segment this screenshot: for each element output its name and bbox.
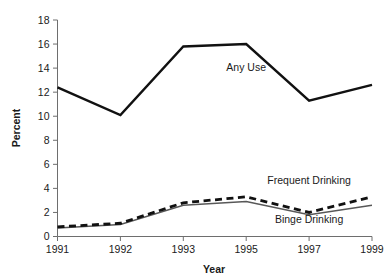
x-tick-label: 1997 <box>297 243 321 255</box>
x-axis: 199119921993199519971999 Year <box>46 237 384 276</box>
y-axis-tick-labels: 024681012141618 <box>38 14 50 243</box>
x-axis-tick-labels: 199119921993199519971999 <box>46 243 384 255</box>
series-group <box>58 44 373 228</box>
y-axis: 024681012141618 Percent <box>10 14 58 243</box>
y-tick-label: 2 <box>44 206 50 218</box>
y-tick-label: 8 <box>44 134 50 146</box>
x-axis-title: Year <box>203 263 225 275</box>
y-tick-label: 6 <box>44 158 50 170</box>
y-axis-ticks <box>53 20 58 237</box>
series-label-any-use: Any Use <box>226 61 266 73</box>
x-tick-label: 1995 <box>235 243 259 255</box>
y-tick-label: 4 <box>44 182 50 194</box>
y-tick-label: 0 <box>44 230 50 242</box>
x-axis-ticks <box>58 237 373 242</box>
series-label-frequent-drinking: Frequent Drinking <box>267 174 351 186</box>
x-tick-label: 1999 <box>360 243 384 255</box>
x-tick-label: 1992 <box>109 243 133 255</box>
series-annotations: Any Use Frequent Drinking Binge Drinking <box>226 61 351 226</box>
y-tick-label: 10 <box>38 110 50 122</box>
y-axis-title: Percent <box>10 108 22 147</box>
y-tick-label: 18 <box>38 14 50 26</box>
line-chart: 024681012141618 Percent 1991199219931995… <box>0 0 387 280</box>
y-tick-label: 12 <box>38 86 50 98</box>
x-tick-label: 1991 <box>46 243 70 255</box>
x-tick-label: 1993 <box>172 243 196 255</box>
y-tick-label: 14 <box>38 62 50 74</box>
series-label-binge-drinking: Binge Drinking <box>275 213 343 225</box>
chart-canvas: 024681012141618 Percent 1991199219931995… <box>0 0 387 280</box>
y-tick-label: 16 <box>38 38 50 50</box>
series-line-any-use <box>58 44 373 115</box>
